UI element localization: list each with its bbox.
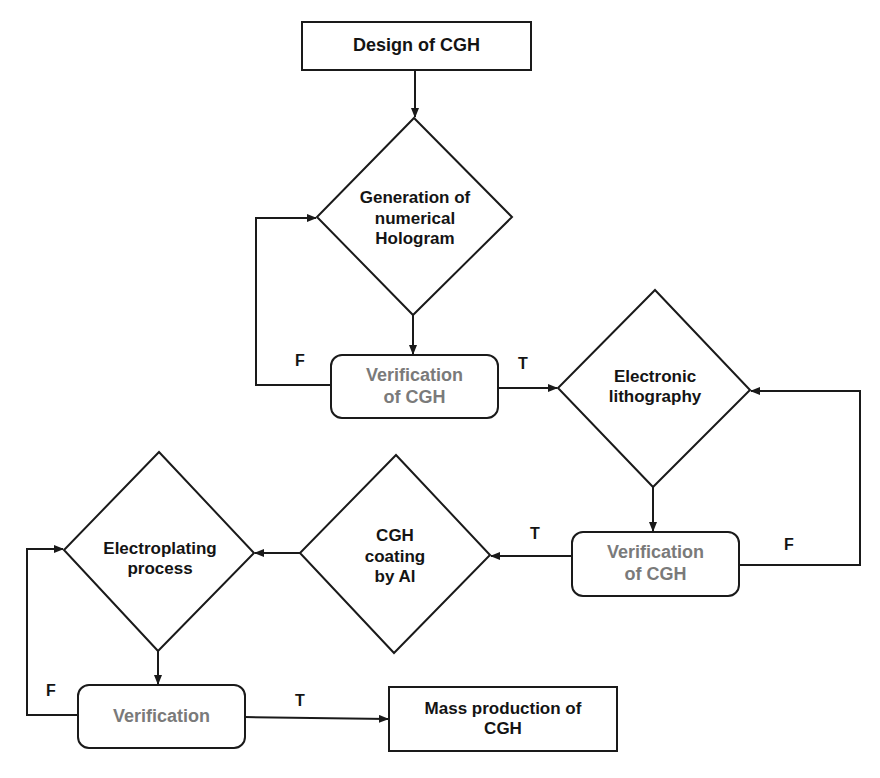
verification2-label: Verification of CGH <box>572 532 739 596</box>
edge-label-v1-true: T <box>518 355 528 373</box>
edge-label-v3-true: T <box>295 692 305 710</box>
generation-label: Generation of numerical Hologram <box>330 183 500 255</box>
verification1-label: Verification of CGH <box>331 355 498 418</box>
arrow-verification3-true <box>245 717 388 719</box>
edge-label-v2-true: T <box>530 525 540 543</box>
design-label: Design of CGH <box>302 22 531 70</box>
flowchart-canvas: Design of CGH Generation of numerical Ho… <box>0 0 880 778</box>
arrow-verification2-false-loop <box>739 391 860 565</box>
edge-label-v3-false: F <box>46 682 56 700</box>
electroplating-label: Electroplating process <box>80 534 240 584</box>
arrow-verification1-false-loop <box>256 218 331 385</box>
lithography-label: Electronic lithography <box>570 362 740 412</box>
verification3-label: Verification <box>78 685 245 748</box>
coating-label: CGH coating by Al <box>330 520 460 594</box>
edge-label-v2-false: F <box>784 536 794 554</box>
edge-label-v1-false: F <box>295 352 305 370</box>
mass-production-label: Mass production of CGH <box>389 687 617 751</box>
